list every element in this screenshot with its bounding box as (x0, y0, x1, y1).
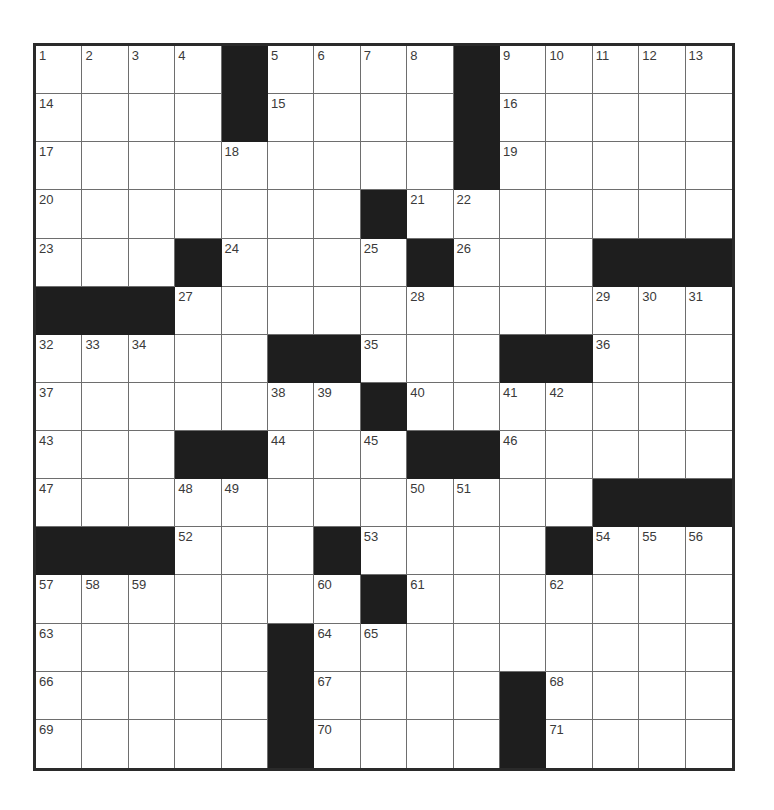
grid-cell[interactable]: 64 (314, 624, 360, 672)
grid-cell[interactable]: 20 (36, 190, 82, 238)
grid-cell[interactable]: 48 (175, 479, 221, 527)
grid-cell[interactable] (314, 190, 360, 238)
grid-cell[interactable]: 25 (361, 239, 407, 287)
grid-cell[interactable]: 2 (82, 46, 128, 94)
grid-cell[interactable] (361, 287, 407, 335)
grid-cell[interactable]: 4 (175, 46, 221, 94)
grid-cell[interactable] (593, 94, 639, 142)
grid-cell[interactable] (639, 672, 685, 720)
grid-cell[interactable] (686, 94, 732, 142)
grid-cell[interactable]: 54 (593, 527, 639, 575)
grid-cell[interactable] (175, 94, 221, 142)
grid-cell[interactable] (454, 383, 500, 431)
grid-cell[interactable]: 35 (361, 335, 407, 383)
grid-cell[interactable] (129, 190, 175, 238)
grid-cell[interactable] (82, 720, 128, 768)
grid-cell[interactable]: 49 (222, 479, 268, 527)
grid-cell[interactable] (175, 335, 221, 383)
grid-cell[interactable] (454, 624, 500, 672)
grid-cell[interactable] (593, 142, 639, 190)
grid-cell[interactable] (686, 672, 732, 720)
grid-cell[interactable]: 43 (36, 431, 82, 479)
grid-cell[interactable] (593, 190, 639, 238)
grid-cell[interactable] (686, 190, 732, 238)
grid-cell[interactable] (175, 624, 221, 672)
grid-cell[interactable]: 44 (268, 431, 314, 479)
grid-cell[interactable] (82, 142, 128, 190)
grid-cell[interactable]: 67 (314, 672, 360, 720)
grid-cell[interactable] (500, 575, 546, 623)
grid-cell[interactable]: 17 (36, 142, 82, 190)
grid-cell[interactable]: 26 (454, 239, 500, 287)
grid-cell[interactable] (407, 527, 453, 575)
grid-cell[interactable] (546, 190, 592, 238)
grid-cell[interactable]: 39 (314, 383, 360, 431)
grid-cell[interactable] (82, 624, 128, 672)
grid-cell[interactable]: 18 (222, 142, 268, 190)
grid-cell[interactable] (222, 720, 268, 768)
grid-cell[interactable]: 47 (36, 479, 82, 527)
grid-cell[interactable] (268, 527, 314, 575)
grid-cell[interactable] (268, 190, 314, 238)
grid-cell[interactable] (593, 575, 639, 623)
grid-cell[interactable]: 66 (36, 672, 82, 720)
grid-cell[interactable]: 38 (268, 383, 314, 431)
grid-cell[interactable]: 28 (407, 287, 453, 335)
grid-cell[interactable]: 68 (546, 672, 592, 720)
grid-cell[interactable] (686, 720, 732, 768)
grid-cell[interactable] (129, 431, 175, 479)
grid-cell[interactable]: 3 (129, 46, 175, 94)
grid-cell[interactable]: 16 (500, 94, 546, 142)
grid-cell[interactable]: 58 (82, 575, 128, 623)
grid-cell[interactable] (82, 383, 128, 431)
grid-cell[interactable] (268, 287, 314, 335)
grid-cell[interactable]: 5 (268, 46, 314, 94)
grid-cell[interactable]: 36 (593, 335, 639, 383)
grid-cell[interactable] (268, 239, 314, 287)
grid-cell[interactable]: 71 (546, 720, 592, 768)
grid-cell[interactable] (546, 624, 592, 672)
grid-cell[interactable] (639, 335, 685, 383)
grid-cell[interactable] (222, 624, 268, 672)
grid-cell[interactable] (454, 720, 500, 768)
grid-cell[interactable] (175, 575, 221, 623)
grid-cell[interactable]: 57 (36, 575, 82, 623)
grid-cell[interactable]: 8 (407, 46, 453, 94)
grid-cell[interactable] (222, 575, 268, 623)
grid-cell[interactable]: 53 (361, 527, 407, 575)
grid-cell[interactable]: 14 (36, 94, 82, 142)
grid-cell[interactable] (546, 287, 592, 335)
grid-cell[interactable] (314, 479, 360, 527)
grid-cell[interactable] (639, 94, 685, 142)
grid-cell[interactable] (686, 624, 732, 672)
grid-cell[interactable]: 9 (500, 46, 546, 94)
grid-cell[interactable] (639, 142, 685, 190)
grid-cell[interactable] (500, 190, 546, 238)
grid-cell[interactable] (593, 431, 639, 479)
grid-cell[interactable]: 1 (36, 46, 82, 94)
grid-cell[interactable]: 11 (593, 46, 639, 94)
grid-cell[interactable] (82, 431, 128, 479)
grid-cell[interactable] (175, 383, 221, 431)
grid-cell[interactable] (314, 239, 360, 287)
grid-cell[interactable] (593, 672, 639, 720)
grid-cell[interactable] (129, 624, 175, 672)
grid-cell[interactable]: 52 (175, 527, 221, 575)
grid-cell[interactable] (361, 672, 407, 720)
grid-cell[interactable] (407, 672, 453, 720)
grid-cell[interactable] (129, 720, 175, 768)
grid-cell[interactable]: 40 (407, 383, 453, 431)
grid-cell[interactable] (129, 142, 175, 190)
grid-cell[interactable] (175, 720, 221, 768)
grid-cell[interactable] (222, 527, 268, 575)
grid-cell[interactable]: 46 (500, 431, 546, 479)
grid-cell[interactable]: 6 (314, 46, 360, 94)
grid-cell[interactable] (129, 383, 175, 431)
grid-cell[interactable]: 10 (546, 46, 592, 94)
grid-cell[interactable] (454, 527, 500, 575)
grid-cell[interactable] (407, 94, 453, 142)
grid-cell[interactable]: 29 (593, 287, 639, 335)
grid-cell[interactable] (454, 575, 500, 623)
grid-cell[interactable] (500, 239, 546, 287)
grid-cell[interactable]: 34 (129, 335, 175, 383)
